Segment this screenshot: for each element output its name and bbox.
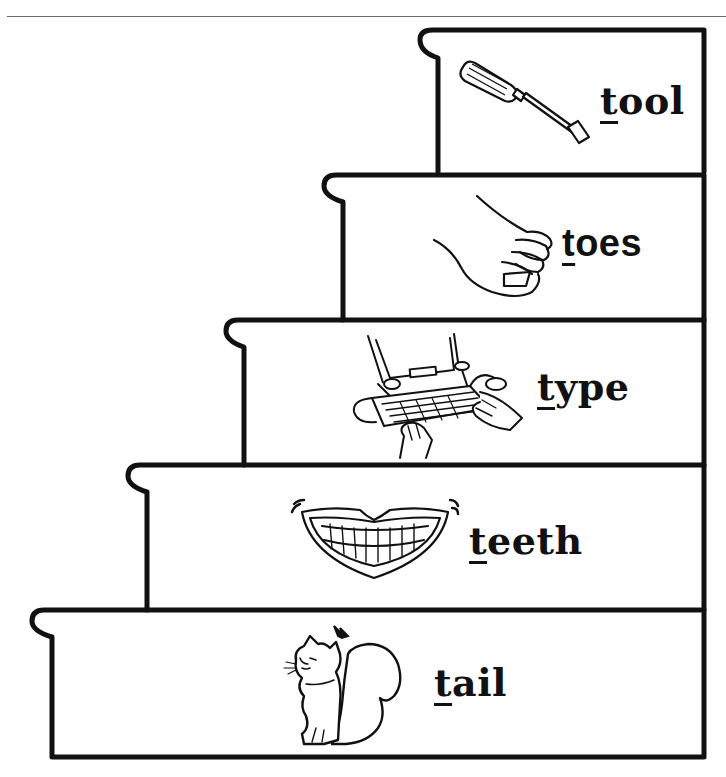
squirrel-tail-icon [282,624,407,748]
first-letter: t [537,364,555,409]
arrow-pointer-icon [334,626,348,638]
word-teeth: teeth [469,522,583,560]
word-tool: tool [600,82,685,120]
screwdriver-icon [455,55,595,150]
word-rest: ype [555,364,629,409]
word-tail: tail [434,664,507,702]
word-rest: ail [452,660,507,705]
word-rest: ool [618,78,685,123]
word-rest: oes [575,222,642,264]
word-toes: toes [562,224,642,262]
foot-toes-icon [432,194,557,304]
word-type: type [537,368,629,406]
smiling-teeth-icon [290,496,460,586]
typing-computer-icon [350,332,528,460]
first-letter: t [434,660,452,705]
first-letter: t [562,222,575,264]
first-letter: t [469,518,487,563]
word-rest: eeth [487,518,583,563]
first-letter: t [600,78,618,123]
